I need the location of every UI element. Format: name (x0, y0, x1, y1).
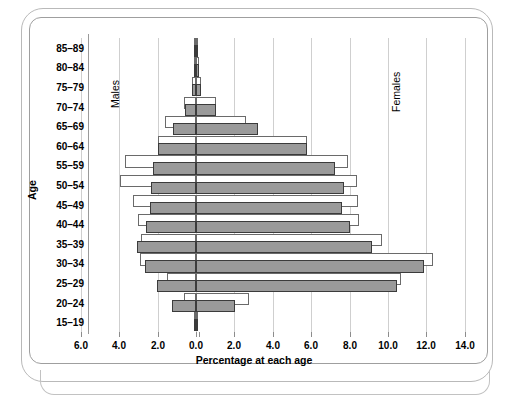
yaxis-tick-label: 25–29 (40, 278, 84, 289)
male-bar-filled (146, 221, 196, 233)
xaxis-tick (119, 332, 120, 337)
male-bar-filled (151, 182, 196, 194)
gridline (426, 38, 427, 334)
xaxis-tick-label: 4.0 (266, 340, 280, 351)
xaxis-tick-label: 2.0 (227, 340, 241, 351)
female-bar-filled (196, 241, 372, 253)
yaxis-tick-label: 30–34 (40, 258, 84, 269)
xaxis-tick-label: 8.0 (343, 340, 357, 351)
male-bar-filled (157, 280, 196, 292)
xaxis-tick (311, 332, 312, 337)
yaxis-tick-label: 40–44 (40, 219, 84, 230)
male-bar-filled (158, 143, 196, 155)
series-label-males: Males (109, 80, 121, 108)
yaxis-line (88, 34, 89, 334)
xaxis-tick-label: 6.0 (304, 340, 318, 351)
xaxis-tick-label: 10.0 (378, 340, 397, 351)
yaxis-tick-label: 15–19 (40, 317, 84, 328)
xaxis-tick (158, 332, 159, 337)
male-bar-filled (145, 260, 196, 272)
yaxis-tick-label: 45–49 (40, 199, 84, 210)
xaxis-tick-label: 12.0 (416, 340, 435, 351)
male-bar-filled (173, 123, 196, 135)
xaxis-tick (273, 332, 274, 337)
yaxis-tick-label: 60–64 (40, 140, 84, 151)
female-bar-filled (196, 143, 307, 155)
female-bar-filled (196, 104, 216, 116)
female-bar-filled (196, 45, 198, 57)
male-bar-filled (137, 241, 196, 253)
female-bar-filled (196, 319, 198, 331)
male-bar-filled (185, 104, 196, 116)
xaxis-tick (81, 332, 82, 337)
xaxis-tick (388, 332, 389, 337)
yaxis-title: Age (26, 180, 38, 200)
xaxis-tick-label: 0.0 (189, 340, 203, 351)
yaxis-tick-label: 70–74 (40, 101, 84, 112)
yaxis-tick-label: 50–54 (40, 180, 84, 191)
yaxis-tick-label: 80–84 (40, 62, 84, 73)
xaxis-tick-label: 14.0 (455, 340, 474, 351)
yaxis-tick-label: 35–39 (40, 238, 84, 249)
female-bar-filled (196, 221, 350, 233)
female-bar-filled (196, 123, 258, 135)
xaxis-tick (465, 332, 466, 337)
female-bar-filled (196, 182, 344, 194)
population-pyramid-chart: 6.04.02.00.02.04.06.08.010.012.014.0 15–… (0, 0, 508, 397)
page-canvas: 6.04.02.00.02.04.06.08.010.012.014.0 15–… (0, 0, 508, 397)
zero-axis-tick-secondary (199, 332, 200, 337)
xaxis-title: Percentage at each age (0, 354, 508, 366)
yaxis-tick-label: 85–89 (40, 42, 84, 53)
yaxis-tick-label: 55–59 (40, 160, 84, 171)
female-bar-filled (196, 84, 201, 96)
gridline (465, 38, 466, 334)
female-bar-filled (196, 202, 342, 214)
xaxis-tick-label: 2.0 (151, 340, 165, 351)
series-label-females: Females (390, 72, 402, 112)
xaxis-tick-label: 4.0 (112, 340, 126, 351)
xaxis-tick (196, 332, 197, 337)
xaxis-tick-label: 6.0 (74, 340, 88, 351)
female-bar-filled (196, 64, 199, 76)
yaxis-tick-label: 65–69 (40, 121, 84, 132)
female-bar-filled (196, 300, 235, 312)
male-bar-filled (172, 300, 196, 312)
male-bar-filled (150, 202, 196, 214)
xaxis-tick (350, 332, 351, 337)
female-bar-filled (196, 162, 335, 174)
yaxis-tick-label: 20–24 (40, 297, 84, 308)
female-bar-filled (196, 260, 424, 272)
yaxis-tick-label: 75–79 (40, 82, 84, 93)
xaxis-tick (426, 332, 427, 337)
male-bar-filled (153, 162, 196, 174)
female-bar-filled (196, 280, 397, 292)
xaxis-tick (234, 332, 235, 337)
